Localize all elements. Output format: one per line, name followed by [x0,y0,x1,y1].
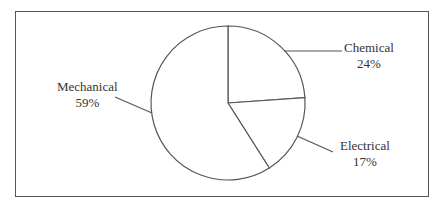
slice-chemical [228,26,305,103]
label-electrical-pct: 17% [340,154,390,170]
label-mechanical: Mechanical 59% [57,79,118,111]
leader-line-electrical [297,136,333,152]
label-chemical-name: Chemical [344,40,394,56]
label-electrical: Electrical 17% [340,138,390,170]
label-chemical: Chemical 24% [344,40,394,72]
leader-line-mechanical [115,97,152,113]
label-electrical-name: Electrical [340,138,390,154]
label-mechanical-pct: 59% [57,95,118,111]
label-chemical-pct: 24% [344,56,394,72]
label-mechanical-name: Mechanical [57,79,118,95]
